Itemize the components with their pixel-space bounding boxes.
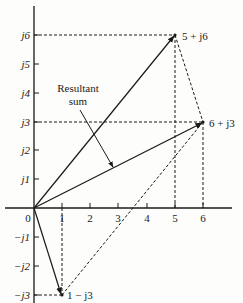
x-label-5: 5 [172, 212, 178, 224]
y-label-j3: j3 [19, 116, 30, 128]
point-6-j3 [201, 120, 204, 123]
x-label-2: 2 [87, 212, 93, 224]
annotation-sum: sum [69, 95, 88, 107]
y-label-j6: j6 [19, 29, 30, 41]
point-5-j6 [173, 33, 176, 36]
y-label-minus-j3: −j3 [14, 289, 30, 301]
point-1-minus-j3 [60, 293, 63, 296]
annotation-resultant: Resultant [57, 82, 99, 94]
phasor-plot: j6 j5 j4 j3 j2 j1 −j1 −j2 −j3 0 1 2 3 4 … [0, 0, 243, 303]
x-label-1: 1 [59, 212, 65, 224]
vector-6-j3 [34, 123, 202, 208]
x-label-3: 3 [115, 212, 121, 224]
y-label-j1: j1 [19, 173, 30, 185]
y-label-j4: j4 [19, 87, 30, 99]
point-label-6-j3: 6 + j3 [209, 117, 235, 129]
x-label-6: 6 [200, 212, 206, 224]
origin-label: 0 [25, 212, 31, 224]
y-label-j5: j5 [19, 58, 30, 70]
y-label-minus-j2: −j2 [14, 260, 30, 272]
x-label-4: 4 [144, 212, 150, 224]
x-ticks [62, 203, 203, 208]
vector-1-minus-j3 [34, 208, 61, 294]
resultant-pointer-arrow [80, 110, 113, 167]
point-label-1-minus-j3: 1 − j3 [67, 289, 93, 301]
point-label-5-j6: 5 + j6 [182, 30, 208, 42]
phasor-diagram: j6 j5 j4 j3 j2 j1 −j1 −j2 −j3 0 1 2 3 4 … [0, 0, 243, 303]
y-label-j2: j2 [19, 144, 30, 156]
y-label-minus-j1: −j1 [14, 231, 30, 243]
y-ticks [34, 35, 39, 295]
